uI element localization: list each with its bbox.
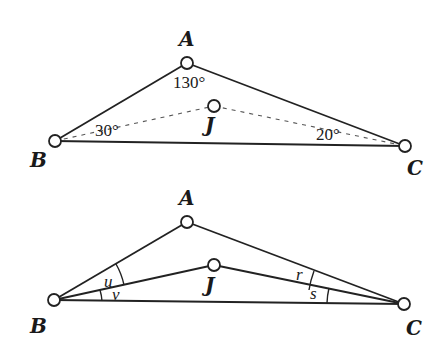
angle-label-v: v <box>112 285 120 304</box>
top-triangle-figure: A B C J 130° 30° 20° <box>29 27 423 180</box>
point-B-bottom <box>48 294 60 306</box>
edge-AB-top <box>55 63 187 141</box>
point-J-top <box>208 100 220 112</box>
label-J-bottom: J <box>201 273 216 297</box>
label-A-top: A <box>177 27 195 51</box>
edge-AB-bottom <box>54 222 187 300</box>
point-J-bottom <box>208 259 220 271</box>
point-C-top <box>399 140 411 152</box>
label-B-top: B <box>29 148 47 172</box>
label-B-bottom: B <box>29 314 47 338</box>
dashed-JC-top <box>214 106 405 146</box>
geometry-diagram: A B C J 130° 30° 20° A B C J u v r s <box>0 0 445 357</box>
point-A-bottom <box>181 216 193 228</box>
point-C-bottom <box>398 298 410 310</box>
angle-B-30: 30° <box>95 121 119 140</box>
arc-s <box>327 288 329 303</box>
edge-BC-bottom <box>54 300 404 304</box>
edge-BC-top <box>55 141 405 146</box>
arc-u <box>116 264 124 285</box>
arc-v <box>100 290 102 301</box>
edge-JC-bottom <box>214 265 404 304</box>
angle-label-r: r <box>296 265 303 284</box>
bottom-triangle-figure: A B C J u v r s <box>29 186 422 340</box>
dashed-BJ-top <box>55 106 214 141</box>
angle-A-130: 130° <box>173 73 205 92</box>
label-C-top: C <box>407 156 423 180</box>
label-J-top: J <box>201 113 216 137</box>
point-A-top <box>181 57 193 69</box>
angle-label-s: s <box>310 284 317 303</box>
angle-C-20: 20° <box>316 125 340 144</box>
edge-BJ-bottom <box>54 265 214 300</box>
label-C-bottom: C <box>406 316 422 340</box>
label-A-bottom: A <box>177 186 195 210</box>
point-B-top <box>49 135 61 147</box>
